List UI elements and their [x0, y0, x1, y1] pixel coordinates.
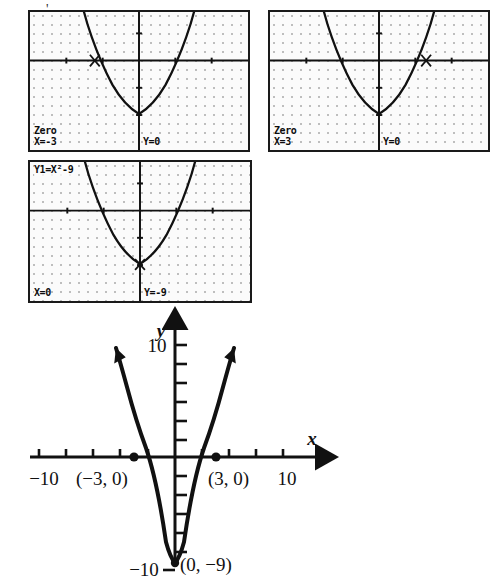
cartesian-graph-svg: x y −10 10 10 −10 (−3, 0) (3, 0) (0, −9)	[0, 305, 482, 578]
point-right-x-intercept	[211, 452, 220, 461]
annotation-right-intercept: (3, 0)	[208, 468, 249, 490]
calculator-expression-label: Y1=X²-9	[34, 165, 73, 176]
calculator-graph-zero-right	[270, 12, 488, 150]
y-tick-label-pos10: 10	[148, 335, 167, 356]
calculator-screen-vertex: Y1=X²-9 X=0 Y=-9	[28, 160, 252, 303]
calculator-graph-zero-left	[30, 12, 248, 150]
calculator-status-label: Zero	[274, 126, 296, 137]
calculator-x-readout: X=-3	[34, 137, 56, 148]
x-tick-label-pos10: 10	[278, 468, 297, 489]
calculator-graph-vertex	[30, 162, 250, 301]
calculator-x-readout: X=0	[34, 288, 51, 299]
calculator-y-readout: Y=-9	[144, 288, 166, 299]
calculator-screen-zero-right: Zero X=3 Y=0	[268, 10, 490, 152]
y-tick-label-neg10: −10	[129, 559, 159, 578]
annotation-vertex: (0, −9)	[180, 554, 232, 576]
calculator-y-readout: Y=0	[383, 137, 400, 148]
scan-artifact-speck: '	[46, 0, 54, 9]
point-left-x-intercept	[129, 452, 138, 461]
calculator-x-readout: X=3	[274, 137, 291, 148]
calculator-status-label: Zero	[34, 126, 56, 137]
calculator-screen-zero-left: Zero X=-3 Y=0	[28, 10, 250, 152]
calculator-y-readout: Y=0	[143, 137, 160, 148]
scan-artifact-glyph: '	[46, 2, 49, 9]
cartesian-graph: x y −10 10 10 −10 (−3, 0) (3, 0) (0, −9)	[0, 305, 482, 578]
annotation-left-intercept: (−3, 0)	[76, 468, 128, 490]
x-tick-label-neg10: −10	[29, 468, 59, 489]
x-axis-label: x	[306, 428, 317, 449]
point-vertex	[171, 559, 179, 567]
